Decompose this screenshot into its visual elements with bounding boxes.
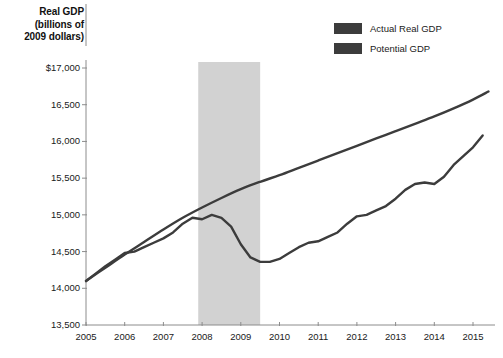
- x-axis-tick-label: 2013: [376, 331, 416, 342]
- series-line-actual-real-gdp: [86, 136, 483, 281]
- series-line-potential-gdp: [86, 92, 488, 281]
- y-axis-tick-label: 15,500: [18, 172, 80, 183]
- y-axis-tick-label: 15,000: [18, 209, 80, 220]
- y-axis-tick-label: 14,000: [18, 282, 80, 293]
- y-axis-tick-label: 16,000: [18, 135, 80, 146]
- x-axis-tick-label: 2011: [298, 331, 338, 342]
- x-axis-tick-label: 2010: [260, 331, 300, 342]
- x-axis-tick-label: 2009: [221, 331, 261, 342]
- y-axis-tick-label: 14,500: [18, 246, 80, 257]
- y-axis-tick-label: 16,500: [18, 99, 80, 110]
- x-axis-tick-label: 2007: [143, 331, 183, 342]
- y-axis-tick-label: $17,000: [18, 62, 80, 73]
- x-axis-tick-label: 2014: [414, 331, 454, 342]
- x-axis-tick-label: 2015: [453, 331, 493, 342]
- axes-group: [82, 4, 495, 326]
- x-axis-tick-label: 2012: [337, 331, 377, 342]
- chart-screen: Real GDP (billions of 2009 dollars) Actu…: [0, 0, 503, 358]
- x-axis-tick-label: 2006: [105, 331, 145, 342]
- x-axis-tick-label: 2005: [66, 331, 106, 342]
- series-group: [86, 92, 488, 281]
- y-axis-tick-label: 13,500: [18, 319, 80, 330]
- x-axis-tick-label: 2008: [182, 331, 222, 342]
